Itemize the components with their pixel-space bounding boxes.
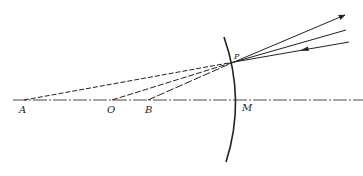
label-O: O [107,104,115,115]
label-M: M [241,102,253,113]
label-P: P [233,52,240,61]
normal-ray-extension [234,30,346,62]
label-B: B [144,104,152,115]
label-A: A [18,104,26,115]
reflected-ray-outgoing [234,15,345,62]
mirror-ray-diagram: A O B M P [0,0,363,176]
diagram-svg: A O B M P [0,0,363,176]
incident-ray-arrow-icon [300,47,309,51]
line-B-to-P [148,62,234,100]
incident-ray [234,42,349,62]
